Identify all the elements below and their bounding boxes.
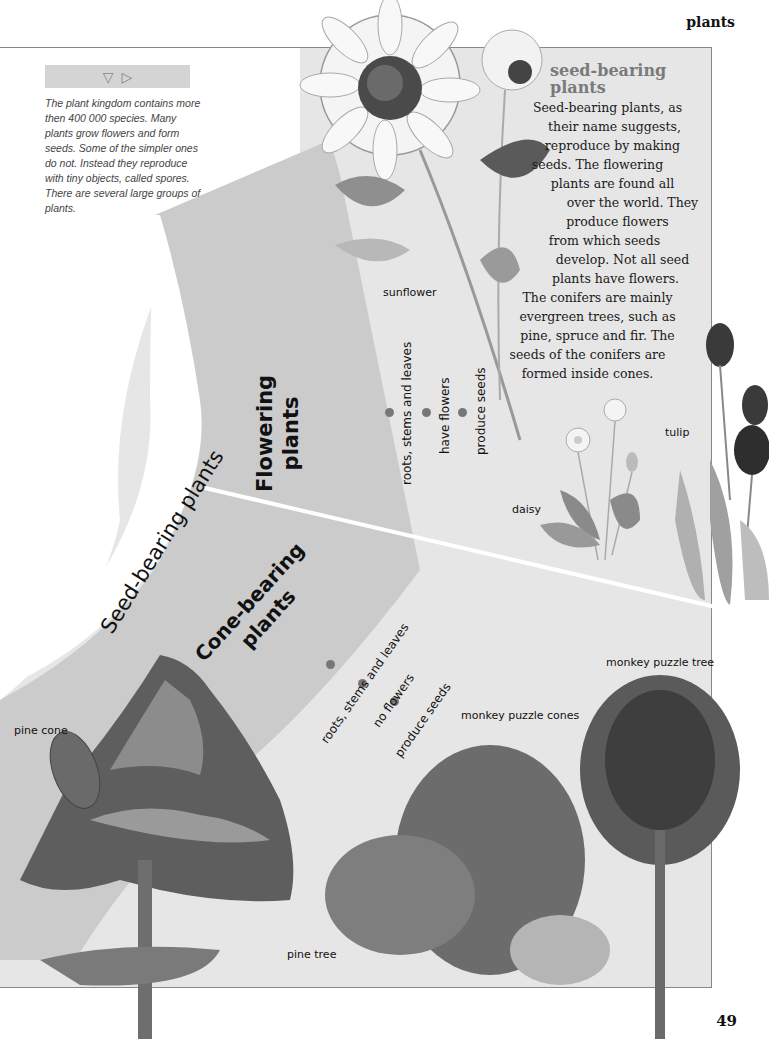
caption-daisy: daisy xyxy=(512,503,541,516)
triangle-down-icon[interactable]: ▽ xyxy=(103,70,114,84)
caption-tulip: tulip xyxy=(665,426,689,439)
trait-bullet xyxy=(326,660,335,669)
sidebar-title: seed-bearing plants xyxy=(550,62,666,96)
caption-sunflower: sunflower xyxy=(383,286,437,299)
trait-bullet xyxy=(458,408,467,417)
trait-bullet xyxy=(385,408,394,417)
sidebar-body: Seed-bearing plants, as their name sugge… xyxy=(475,98,720,383)
monkey-puzzle-cones-illustration xyxy=(325,745,610,985)
nav-icon-bar: ▽ ▷ xyxy=(45,65,190,88)
flowering-trait-3: produce seeds xyxy=(474,367,488,455)
caption-pine-tree: pine tree xyxy=(287,948,336,961)
flowering-plants-title: Flowering plants xyxy=(252,375,304,492)
flowering-trait-1: roots, stems and leaves xyxy=(400,342,414,485)
caption-monkey-puzzle-tree: monkey puzzle tree xyxy=(606,656,714,669)
triangle-right-icon[interactable]: ▷ xyxy=(122,70,133,84)
caption-monkey-puzzle-cones: monkey puzzle cones xyxy=(461,709,579,722)
daisy-illustration xyxy=(540,399,640,560)
caption-pine-cone: pine cone xyxy=(14,724,68,737)
page-number: 49 xyxy=(716,1012,737,1030)
intro-text: The plant kingdom contains more then 400… xyxy=(45,96,205,216)
flowering-trait-2: have flowers xyxy=(438,377,452,454)
trait-bullet xyxy=(422,408,431,417)
monkey-puzzle-tree-illustration xyxy=(580,675,740,1039)
